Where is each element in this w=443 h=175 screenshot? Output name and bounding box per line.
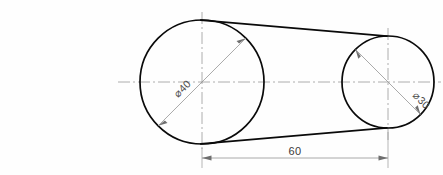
cad-drawing-svg: ⌀40 ⌀30 60: [0, 0, 443, 175]
upper-tangent-belt-line: [201, 20, 387, 36]
technical-drawing-canvas: ⌀40 ⌀30 60: [0, 0, 443, 175]
center-distance-arrowhead-left: [202, 156, 212, 161]
lower-tangent-belt-line: [201, 128, 387, 144]
center-distance-arrowhead-right: [379, 156, 389, 161]
large-diameter-label: ⌀40: [171, 77, 193, 99]
center-distance-label: 60: [289, 145, 302, 157]
